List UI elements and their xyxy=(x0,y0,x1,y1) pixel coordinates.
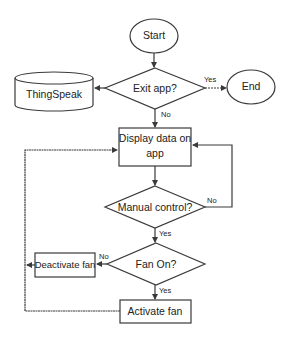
flowchart: Start Exit app? Yes No End ThingSpeak Di… xyxy=(0,0,290,337)
manual-yes-label: Yes xyxy=(159,229,171,238)
exit-yes-label: Yes xyxy=(204,75,216,84)
exit-no-label: No xyxy=(161,110,171,119)
activate-fan-label: Activate fan xyxy=(128,305,183,317)
manual-no-label: No xyxy=(207,196,217,205)
exit-app-label: Exit app? xyxy=(133,82,177,94)
edge-activate-loop xyxy=(25,150,120,311)
start-label: Start xyxy=(143,29,165,41)
display-label-line1: Display data on xyxy=(119,132,192,144)
fan-no-label: No xyxy=(99,252,109,261)
deactivate-fan-label: Deactivate fan xyxy=(35,259,96,270)
display-label-line2: app xyxy=(146,147,164,159)
thingspeak-label: ThingSpeak xyxy=(26,88,83,100)
manual-control-label: Manual control? xyxy=(118,201,193,213)
fan-yes-label: Yes xyxy=(159,286,171,295)
end-label: End xyxy=(242,80,261,92)
fan-on-label: Fan On? xyxy=(136,258,177,270)
